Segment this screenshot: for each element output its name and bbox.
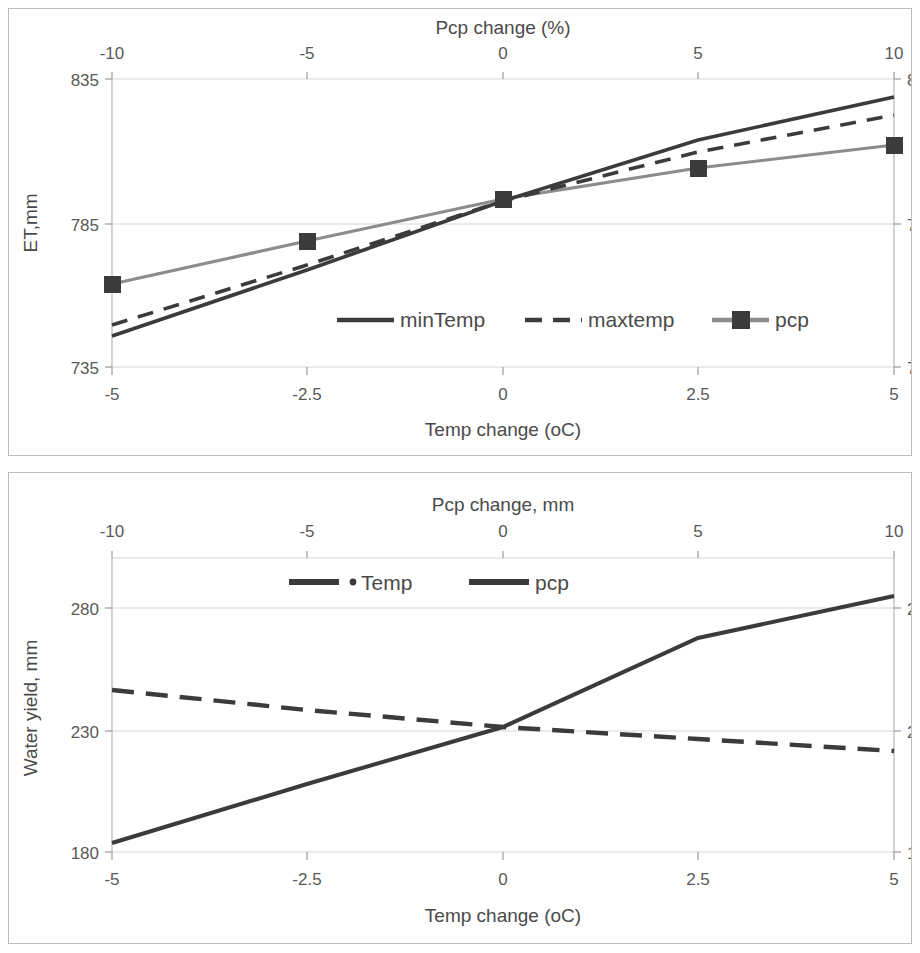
wy-y-tick-left-2: 180 [71, 844, 99, 863]
et-chart-svg: minTemp maxtemp pcp Pcp change (%) Temp … [9, 9, 911, 455]
wy-legend-dot-temp [350, 579, 357, 586]
et-bottom-tick-labels: -5 -2.5 0 2.5 5 [104, 385, 898, 404]
wy-series-temp [112, 690, 894, 751]
et-y-tick-left-0: 835 [71, 71, 99, 90]
et-bottom-tick-1: -2.5 [292, 385, 321, 404]
wy-y-axis-ticks [105, 608, 901, 852]
wy-y-tick-labels-right: 280 230 180 [907, 600, 911, 863]
wy-y-tick-left-1: 230 [71, 723, 99, 742]
et-y-tick-right-2: 735 [907, 359, 911, 378]
chart-panel-et: minTemp maxtemp pcp Pcp change (%) Temp … [8, 8, 912, 456]
et-legend-label-mintemp: minTemp [400, 308, 485, 331]
et-series-pcp [112, 145, 894, 284]
wy-top-tick-3: 5 [693, 522, 702, 541]
wy-top-axis-ticks [112, 551, 894, 558]
et-legend-label-maxtemp: maxtemp [588, 308, 674, 331]
et-top-tick-2: 0 [498, 44, 507, 63]
et-y-axis-title: ET,mm [20, 193, 41, 252]
wy-bottom-tick-4: 5 [889, 870, 898, 889]
et-y-tick-left-2: 735 [71, 359, 99, 378]
wy-top-tick-4: 10 [885, 522, 904, 541]
wy-bottom-tick-labels: -5 -2.5 0 2.5 5 [104, 870, 898, 889]
wy-legend-label-pcp: pcp [535, 571, 569, 594]
et-bottom-tick-2: 0 [498, 385, 507, 404]
et-top-tick-4: 10 [885, 44, 904, 63]
figure-page: minTemp maxtemp pcp Pcp change (%) Temp … [0, 0, 920, 953]
wy-bottom-axis-title: Temp change (oC) [425, 905, 581, 926]
et-y-tick-right-0: 835 [907, 71, 911, 90]
et-top-tick-1: -5 [299, 44, 314, 63]
wy-legend-label-temp: Temp [361, 571, 412, 594]
et-legend-marker-pcp [732, 311, 750, 329]
et-top-axis-ticks [112, 72, 894, 79]
wy-top-tick-2: 0 [498, 522, 507, 541]
et-series-pcp-markers [104, 137, 903, 293]
et-top-tick-0: -10 [100, 44, 125, 63]
wy-y-tick-right-0: 280 [907, 600, 911, 619]
et-series-maxtemp [112, 115, 894, 325]
wy-y-axis-title: Water yield, mm [20, 640, 41, 777]
et-top-tick-3: 5 [693, 44, 702, 63]
wy-series-pcp [112, 596, 894, 843]
et-top-tick-labels: -10 -5 0 5 10 [100, 44, 904, 63]
et-legend-label-pcp: pcp [775, 308, 809, 331]
et-bottom-axis-title: Temp change (oC) [425, 419, 581, 440]
wy-bottom-tick-3: 2.5 [686, 870, 710, 889]
chart-panel-water-yield: Temp pcp Pcp change, mm Temp change (oC)… [8, 472, 912, 944]
et-y-tick-right-1: 785 [907, 216, 911, 235]
et-y-tick-left-1: 785 [71, 216, 99, 235]
et-bottom-tick-3: 2.5 [686, 385, 710, 404]
wy-top-tick-1: -5 [299, 522, 314, 541]
wy-y-tick-labels-left: 280 230 180 [71, 600, 99, 863]
et-y-tick-labels-left: 835 785 735 [71, 71, 99, 378]
et-legend: minTemp maxtemp pcp [337, 308, 809, 331]
et-bottom-axis-ticks [112, 367, 894, 375]
et-bottom-tick-4: 5 [889, 385, 898, 404]
wy-bottom-axis-ticks [112, 852, 894, 860]
wy-top-tick-0: -10 [100, 522, 125, 541]
et-y-tick-labels-right: 835 785 735 [907, 71, 911, 378]
wy-y-tick-right-1: 230 [907, 723, 911, 742]
wy-chart-svg: Temp pcp Pcp change, mm Temp change (oC)… [9, 473, 911, 943]
wy-top-axis-title: Pcp change, mm [432, 494, 575, 515]
wy-top-tick-labels: -10 -5 0 5 10 [100, 522, 904, 541]
et-bottom-tick-0: -5 [104, 385, 119, 404]
wy-y-tick-left-0: 280 [71, 600, 99, 619]
wy-legend: Temp pcp [289, 571, 569, 594]
wy-bottom-tick-1: -2.5 [292, 870, 321, 889]
et-top-axis-title: Pcp change (%) [435, 17, 570, 38]
et-series-mintemp [112, 97, 894, 336]
wy-y-tick-right-2: 180 [907, 844, 911, 863]
wy-bottom-tick-2: 0 [498, 870, 507, 889]
wy-bottom-tick-0: -5 [104, 870, 119, 889]
